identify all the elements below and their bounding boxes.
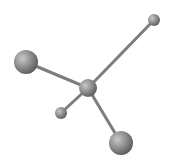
atom-center: [79, 79, 97, 97]
atom-lower-left: [55, 107, 67, 119]
bond-top-right: [88, 20, 154, 88]
molecule-diagram: [0, 0, 171, 167]
atom-top-right: [148, 14, 160, 26]
molecule-svg: [0, 0, 171, 167]
atom-bottom: [109, 131, 133, 155]
atom-left: [14, 50, 38, 74]
